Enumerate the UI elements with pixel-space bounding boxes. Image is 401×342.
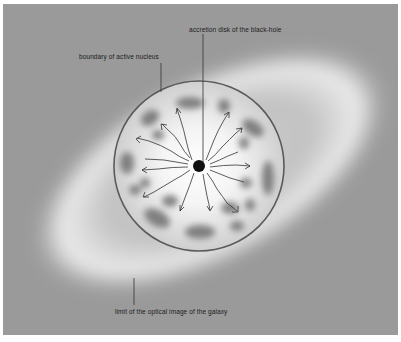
label-nucleus-boundary: boundary of active nucleus <box>79 53 159 60</box>
galaxy-diagram <box>3 4 398 335</box>
diagram-canvas: accretion disk of the black-hole boundar… <box>3 4 398 335</box>
label-accretion-disk: accretion disk of the black-hole <box>189 26 281 33</box>
label-galaxy-limit: limit of the optical image of the galaxy <box>115 308 227 315</box>
